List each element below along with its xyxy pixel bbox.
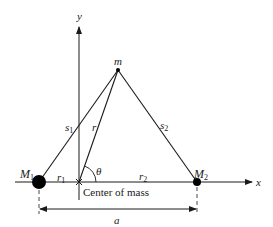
x-axis-label: x: [255, 176, 261, 188]
segment-s1-label: s1: [65, 121, 73, 135]
segment-r2-label: r2: [139, 170, 147, 184]
mass-M1-dot: [32, 175, 46, 189]
angle-theta-arc: [85, 166, 96, 182]
y-axis-label: y: [76, 10, 82, 22]
two-body-diagram: y x m M1 M2 s1 s2 r r1 r2 θ Center of ma…: [0, 0, 273, 227]
segment-r-label: r: [92, 121, 97, 133]
segment-s2: [118, 70, 197, 182]
mass-m-label: m: [114, 55, 122, 67]
segment-s2-label: s2: [160, 119, 168, 133]
segment-r1-label: r1: [57, 171, 65, 185]
center-of-mass-label: Center of mass: [83, 186, 149, 198]
mass-m-dot: [116, 68, 120, 72]
angle-theta-label: θ: [96, 165, 102, 177]
separation-a-label: a: [114, 214, 120, 226]
mass-M1-label: M1: [19, 167, 34, 182]
mass-M2-label: M2: [193, 167, 208, 182]
